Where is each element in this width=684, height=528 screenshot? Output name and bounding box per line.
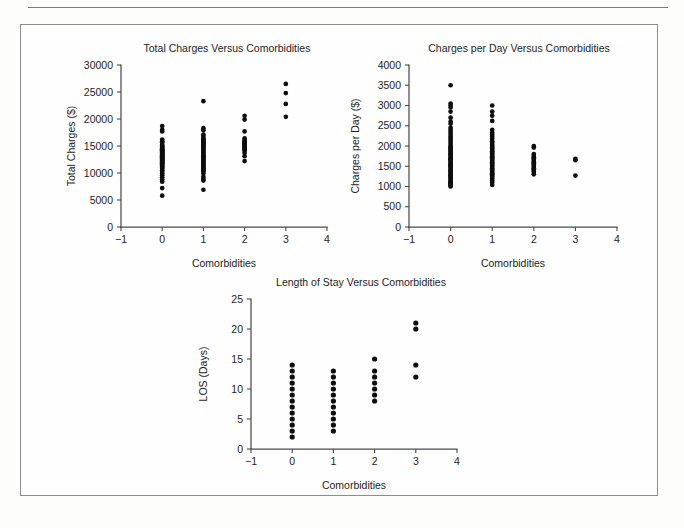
data-point — [531, 145, 536, 150]
chart-title: Total Charges Versus Comorbidities — [144, 42, 311, 54]
y-tick-label: 4000 — [378, 59, 402, 71]
data-point — [290, 386, 295, 391]
y-tick-label: 1000 — [378, 180, 402, 192]
data-point — [448, 105, 453, 110]
x-tick-label: 1 — [200, 233, 206, 245]
x-tick-label: −1 — [245, 455, 257, 467]
y-tick-label: 15 — [231, 353, 243, 365]
y-tick-label: 2000 — [378, 140, 402, 152]
y-tick-label: 30000 — [84, 59, 113, 71]
x-tick-label: 3 — [413, 455, 419, 467]
data-point — [372, 398, 377, 403]
data-points — [290, 320, 419, 439]
data-point — [331, 422, 336, 427]
x-tick-label: −1 — [115, 233, 127, 245]
x-tick-label: −1 — [403, 233, 415, 245]
y-axis-title: Total Charges ($) — [65, 106, 77, 187]
y-tick-label: 20000 — [84, 113, 113, 125]
x-tick-label: 2 — [242, 233, 248, 245]
data-point — [372, 356, 377, 361]
x-tick-label: 1 — [489, 233, 495, 245]
x-tick-label: 3 — [572, 233, 578, 245]
y-tick-label: 0 — [107, 221, 113, 233]
y-tick-label: 1500 — [378, 160, 402, 172]
data-point — [331, 386, 336, 391]
data-point — [372, 380, 377, 385]
data-point — [160, 186, 165, 191]
chart-total-charges: Total Charges Versus Comorbidities050001… — [59, 39, 339, 269]
y-tick-label: 25000 — [84, 86, 113, 98]
data-point — [283, 114, 288, 119]
data-point — [448, 109, 453, 114]
x-axis-title: Comorbidities — [481, 257, 545, 269]
data-point — [372, 368, 377, 373]
y-axis-title: Charges per Day ($) — [349, 98, 361, 193]
page-top-rule — [28, 7, 668, 8]
y-tick-label: 5 — [237, 413, 243, 425]
data-point — [331, 416, 336, 421]
data-point — [160, 193, 165, 198]
x-tick-label: 3 — [283, 233, 289, 245]
data-point — [490, 109, 495, 114]
y-tick-label: 5000 — [90, 194, 114, 206]
data-point — [242, 159, 247, 164]
data-point — [448, 184, 453, 189]
data-point — [290, 368, 295, 373]
data-point — [160, 129, 165, 134]
y-tick-label: 2500 — [378, 119, 402, 131]
x-tick-label: 4 — [614, 233, 620, 245]
data-point — [331, 410, 336, 415]
data-point — [290, 362, 295, 367]
data-point — [490, 103, 495, 108]
y-tick-label: 10000 — [84, 167, 113, 179]
data-point — [331, 374, 336, 379]
chart-charges-per-day-svg: Charges per Day Versus Comorbidities0500… — [339, 39, 639, 269]
data-point — [290, 422, 295, 427]
x-axis-title: Comorbidities — [192, 257, 256, 269]
chart-total-charges-svg: Total Charges Versus Comorbidities050001… — [59, 39, 339, 269]
x-tick-label: 0 — [448, 233, 454, 245]
data-point — [242, 154, 247, 159]
data-point — [242, 117, 247, 122]
data-point — [448, 115, 453, 120]
data-point — [331, 398, 336, 403]
y-tick-label: 20 — [231, 323, 243, 335]
chart-title: Charges per Day Versus Comorbidities — [428, 42, 610, 54]
x-tick-label: 0 — [289, 455, 295, 467]
figure-page: Total Charges Versus Comorbidities050001… — [0, 0, 684, 528]
data-point — [290, 380, 295, 385]
data-point — [331, 392, 336, 397]
y-tick-label: 3000 — [378, 99, 402, 111]
data-point — [331, 428, 336, 433]
data-points — [448, 83, 578, 189]
data-point — [490, 119, 495, 124]
data-point — [372, 392, 377, 397]
data-point — [372, 374, 377, 379]
chart-charges-per-day: Charges per Day Versus Comorbidities0500… — [339, 39, 639, 269]
x-tick-label: 4 — [324, 233, 330, 245]
x-tick-label: 2 — [372, 455, 378, 467]
data-point — [290, 404, 295, 409]
y-tick-label: 10 — [231, 383, 243, 395]
data-point — [283, 82, 288, 87]
x-tick-label: 0 — [159, 233, 165, 245]
data-point — [201, 187, 206, 192]
data-point — [490, 113, 495, 118]
x-tick-label: 4 — [454, 455, 460, 467]
figure-frame: Total Charges Versus Comorbidities050001… — [20, 24, 658, 496]
data-point — [413, 320, 418, 325]
x-tick-label: 1 — [330, 455, 336, 467]
data-point — [290, 410, 295, 415]
y-tick-label: 15000 — [84, 140, 113, 152]
chart-title: Length of Stay Versus Comorbidities — [276, 276, 446, 288]
data-point — [413, 362, 418, 367]
data-point — [290, 374, 295, 379]
y-tick-label: 500 — [383, 200, 401, 212]
chart-length-of-stay: Length of Stay Versus Comorbidities05101… — [189, 273, 489, 489]
data-point — [201, 99, 206, 104]
data-point — [413, 374, 418, 379]
data-point — [290, 434, 295, 439]
data-point — [448, 121, 453, 126]
data-point — [242, 129, 247, 134]
y-tick-label: 3500 — [378, 79, 402, 91]
